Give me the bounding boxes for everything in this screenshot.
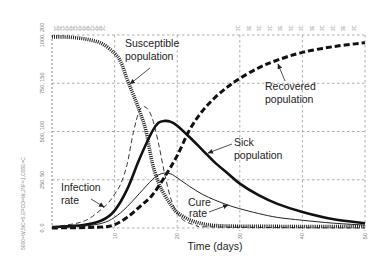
annotation-susceptible-line2: population (125, 50, 174, 62)
epidemic-model-chart: 0, 0250, 50500, 100750, 1501000, 2001020… (0, 0, 386, 268)
arrow-icon (130, 68, 150, 84)
x-tick-label: 10 (112, 233, 118, 239)
annotation-susceptible-line1: Susceptible (125, 37, 179, 49)
annotation-cure-line2: rate (189, 207, 207, 219)
arrow-icon (208, 144, 232, 153)
top-tick-mark: 3C (257, 24, 262, 31)
side-caption: 5000=W,5IC=5,EPCO=W,JNF=1,C08E=C (20, 157, 26, 250)
annotation-infection: Infection rate (61, 181, 104, 207)
annotation-recovered: Recovered population (265, 64, 316, 105)
top-tick-mark: 3C (352, 24, 357, 31)
annotation-recovered-line1: Recovered (265, 80, 316, 92)
top-tick-mark: 3E (247, 25, 252, 31)
arrow-icon (209, 205, 228, 212)
annotation-sick: Sick population (208, 136, 283, 161)
y-tick-label: 0, 0 (39, 223, 45, 232)
y-tick-label: 500, 100 (39, 121, 45, 142)
annotation-sick-line2: population (234, 149, 283, 161)
annotation-susceptible: Susceptible population (125, 37, 179, 84)
x-tick-label: 30 (237, 233, 243, 239)
x-tick-label: 20 (174, 233, 180, 239)
x-axis-label: Time (days) (187, 240, 242, 252)
arrow-icon (91, 199, 104, 207)
x-tick-label: 40 (299, 233, 305, 239)
annotation-sick-line1: Sick (234, 136, 255, 148)
y-tick-label: 1000, 200 (39, 23, 45, 47)
top-tick-mark: 3E (278, 25, 283, 31)
y-tick-label: 750, 150 (39, 73, 45, 94)
top-tick-mark: 3C (299, 24, 304, 31)
y-tick-label: 250, 50 (39, 171, 45, 189)
top-tick-mark: 3C (320, 24, 325, 31)
top-tick-mark: 3E (310, 25, 315, 31)
top-tick-mark: 3C (268, 24, 273, 31)
top-tick-marks: 3C3E3C3C3E3C3C3E3C3C3E3C3C3E3C3C3E3C3C3E… (54, 24, 357, 31)
annotation-infection-line1: Infection (61, 181, 101, 193)
x-tick-label: 50 (362, 233, 368, 239)
series-infection-rate (52, 107, 365, 228)
top-tick-mark: 3C (101, 24, 106, 31)
annotation-recovered-line2: population (265, 93, 314, 105)
top-tick-mark: 3C (331, 24, 336, 31)
top-tick-mark: 3C (289, 24, 294, 31)
top-tick-mark: 3E (341, 25, 346, 31)
annotation-cure: Cure rate (188, 196, 228, 219)
top-tick-mark: 3C (236, 24, 241, 31)
arrow-icon (278, 64, 285, 81)
annotation-infection-line2: rate (61, 194, 79, 206)
